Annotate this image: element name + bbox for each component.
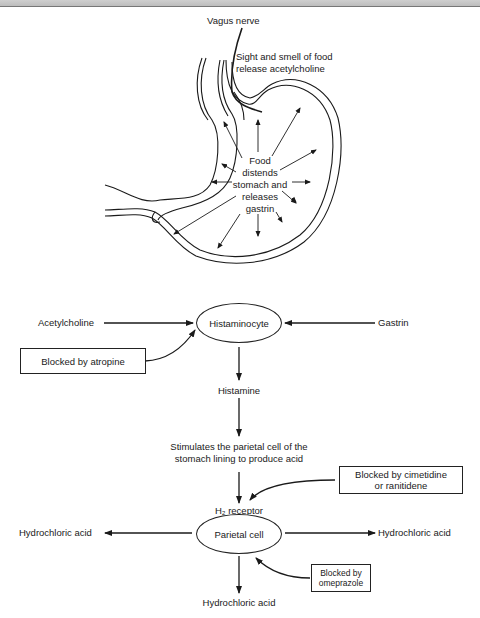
hcl-left-label: Hydrochloric acid	[19, 527, 92, 538]
sight-smell-label-2: release acetylcholine	[236, 63, 325, 74]
histaminocyte-label: Histaminocyte	[209, 318, 269, 329]
hcl-right-label: Hydrochloric acid	[378, 527, 451, 538]
acetylcholine-label: Acetylcholine	[38, 317, 94, 328]
parietal-cell-node: Parietal cell	[196, 514, 282, 554]
sight-smell-label-1: Sight and smell of food	[236, 51, 333, 62]
blocked-atropine-box: Blocked by atropine	[20, 348, 146, 374]
histaminocyte-node: Histaminocyte	[196, 303, 282, 343]
blocked-cimetidine-label-1: Blocked by cimetidine	[355, 469, 447, 480]
blocked-omeprazole-label-1: Blocked by	[320, 568, 362, 578]
vagus-nerve-label: Vagus nerve	[207, 15, 260, 26]
blocked-atropine-label: Blocked by atropine	[41, 356, 124, 367]
food-label-1: Food	[222, 155, 298, 166]
blocked-cimetidine-box: Blocked by cimetidine or ranitidene	[339, 466, 463, 494]
blocked-omeprazole-box: Blocked by omeprazole	[311, 564, 371, 592]
stimulates-label-2: stomach lining to produce acid	[139, 453, 339, 464]
blocked-omeprazole-label-2: omeprazole	[319, 578, 363, 588]
food-label-2: distends	[222, 167, 298, 178]
food-label-3: stomach and	[222, 179, 298, 190]
histamine-label: Histamine	[189, 385, 289, 396]
parietal-cell-label: Parietal cell	[214, 529, 263, 540]
food-label-5: gastrin	[222, 203, 298, 214]
distension-arrows	[174, 108, 316, 248]
stimulates-label-1: Stimulates the parietal cell of the	[139, 441, 339, 452]
hcl-bottom-label: Hydrochloric acid	[179, 597, 299, 608]
gastrin-label: Gastrin	[378, 317, 409, 328]
food-label-4: releases	[222, 191, 298, 202]
blocked-cimetidine-label-2: or ranitidene	[375, 480, 428, 491]
